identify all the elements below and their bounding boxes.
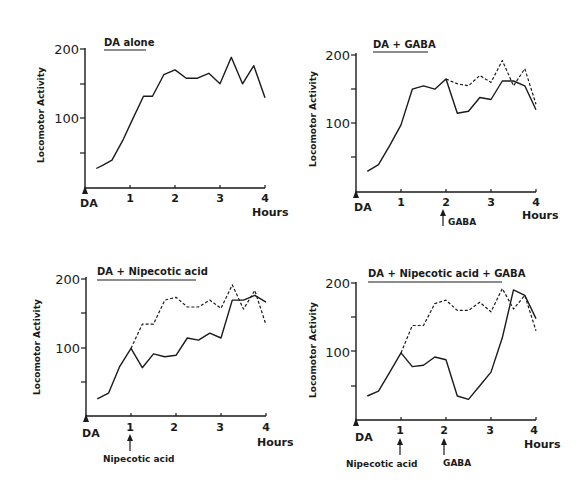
y-axis-label: Locomotor Activity [308,71,318,167]
series-lines [367,289,536,400]
x-tick-label-1: 1 [126,421,134,434]
nipecotic-arrow-icon [397,438,403,455]
gaba-arrow-icon [440,209,446,226]
y-tick-label-100: 100 [325,116,350,131]
figure: DA alone Locomotor Activity 200 100 DA 1… [0,0,577,491]
x-tick-label-3: 3 [487,196,495,209]
panel-da-nipecotic: DA + Nipecotic acid Locomotor Activity 2… [32,266,294,464]
panel-title: DA + GABA [373,39,436,50]
x-origin-label: DA [82,427,100,440]
x-tick-label-3: 3 [486,424,494,437]
x-tick-label-1: 1 [397,196,405,209]
gaba-annotation: GABA [448,217,476,227]
da-arrow-icon [353,418,359,426]
data-line-solid [367,79,536,171]
x-tick-label-2: 2 [442,196,450,209]
da-arrow-icon [353,190,359,198]
x-tick-label-2: 2 [440,424,448,437]
data-line-solid [97,295,266,399]
y-axis-label: Locomotor Activity [36,67,46,163]
x-tick-label-2: 2 [171,192,179,205]
y-axis-label: Locomotor Activity [32,299,42,395]
axes [85,48,265,188]
x-tick-label-2: 2 [170,421,178,434]
y-tick-label-100: 100 [55,341,80,356]
x-unit-label: Hours [252,206,289,219]
x-tick-label-3: 3 [216,421,224,434]
x-tick-label-3: 3 [216,192,224,205]
panel-title: DA + Nipecotic acid + GABA [368,268,526,279]
x-origin-label: DA [355,431,373,444]
series-lines [367,61,536,172]
x-origin-label: DA [80,197,98,210]
x-unit-label: Hours [524,438,561,451]
nipecotic-arrow-icon [127,434,133,451]
y-tick-label-200: 200 [325,276,350,291]
x-tick-label-4: 4 [530,424,538,437]
x-tick-label-1: 1 [126,192,134,205]
panel-da-nipecotic-gaba: DA + Nipecotic acid + GABA Locomotor Act… [308,268,561,469]
x-origin-label: DA [354,201,372,214]
axes [356,282,536,420]
y-tick-label-200: 200 [54,42,79,57]
y-tick-label-100: 100 [54,111,79,126]
reference-line-dashed [131,285,266,349]
x-unit-label: Hours [522,209,559,222]
reference-line-dashed [401,289,536,353]
data-line-solid [96,57,265,168]
panel-da-gaba: DA + GABA Locomotor Activity 200 100 DA … [308,39,559,227]
nipecotic-annotation: Nipecotic acid [346,459,417,469]
da-arrow-icon [83,414,89,422]
series-lines [96,57,265,168]
axes [356,53,536,192]
x-tick-label-1: 1 [396,424,404,437]
y-tick-label-100: 100 [325,345,350,360]
y-tick-label-200: 200 [55,272,80,287]
gaba-annotation: GABA [443,458,471,468]
x-unit-label: Hours [257,436,294,449]
nipecotic-annotation: Nipecotic acid [103,454,174,464]
y-tick-label-200: 200 [325,48,350,63]
panel-da-alone: DA alone Locomotor Activity 200 100 DA 1… [36,37,289,219]
panel-title: DA + Nipecotic acid [97,266,208,277]
gaba-arrow-icon [441,438,447,455]
x-tick-label-4: 4 [261,192,269,205]
x-tick-label-4: 4 [262,421,270,434]
reference-line-dashed [446,61,536,105]
da-arrow-icon [82,186,88,194]
y-axis-label: Locomotor Activity [308,302,318,398]
x-tick-label-4: 4 [532,196,540,209]
panel-title: DA alone [104,37,155,48]
data-line-solid [367,290,536,400]
series-lines [97,285,266,399]
